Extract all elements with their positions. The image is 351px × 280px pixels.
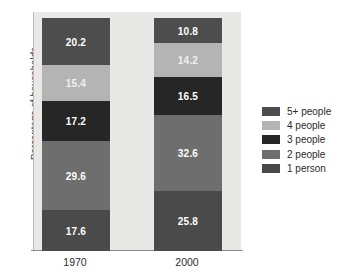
bar-segment-value: 17.2	[42, 116, 110, 127]
legend-item-label: 5+ people	[287, 106, 331, 117]
legend-swatch-icon	[262, 150, 280, 159]
bar-segment-value: 15.4	[42, 78, 110, 89]
bar-segment[interactable]: 29.6	[42, 141, 110, 210]
x-tick-label-2000: 2000	[147, 256, 227, 268]
bar-segment-value: 14.2	[154, 54, 222, 65]
bar-segment-value: 32.6	[154, 147, 222, 158]
legend-swatch-icon	[262, 135, 280, 144]
legend-item-label: 3 people	[287, 134, 325, 145]
legend-item[interactable]: 2 people	[262, 147, 331, 161]
legend-item-label: 4 people	[287, 120, 325, 131]
bar-segment[interactable]: 10.8	[154, 18, 222, 43]
bar-1970[interactable]: 20.215.417.229.617.6	[42, 18, 110, 251]
bar-segment[interactable]: 16.5	[154, 77, 222, 115]
legend-item[interactable]: 1 person	[262, 162, 331, 176]
bar-segment[interactable]: 14.2	[154, 43, 222, 76]
legend-swatch-icon	[262, 164, 280, 173]
bar-segment[interactable]: 32.6	[154, 115, 222, 191]
bar-segment[interactable]: 15.4	[42, 65, 110, 101]
bar-segment[interactable]: 20.2	[42, 18, 110, 65]
bar-segment-value: 16.5	[154, 90, 222, 101]
legend-swatch-icon	[262, 107, 280, 116]
bar-segment-value: 25.8	[154, 215, 222, 226]
legend-item[interactable]: 3 people	[262, 133, 331, 147]
bar-segment-value: 17.6	[42, 225, 110, 236]
legend-item[interactable]: 5+ people	[262, 104, 331, 118]
legend: 5+ people4 people3 people2 people1 perso…	[262, 104, 331, 176]
legend-item-label: 1 person	[287, 163, 326, 174]
bar-segment[interactable]: 17.6	[42, 210, 110, 251]
chart-container: Percentage of households 20.215.417.229.…	[0, 0, 351, 280]
legend-item[interactable]: 4 people	[262, 118, 331, 132]
x-tick-label-1970: 1970	[35, 256, 115, 268]
bar-2000[interactable]: 10.814.216.532.625.8	[154, 18, 222, 251]
bar-segment[interactable]: 17.2	[42, 101, 110, 141]
bar-segment-value: 29.6	[42, 170, 110, 181]
legend-item-label: 2 people	[287, 149, 325, 160]
bar-segment[interactable]: 25.8	[154, 191, 222, 251]
legend-swatch-icon	[262, 121, 280, 130]
bar-segment-value: 10.8	[154, 25, 222, 36]
bar-segment-value: 20.2	[42, 36, 110, 47]
